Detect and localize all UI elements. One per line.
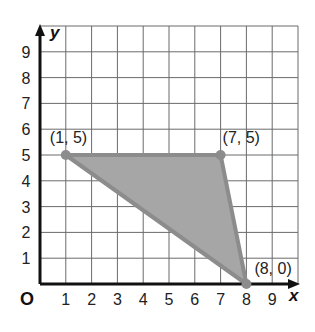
vertex-label: (8, 0): [254, 260, 291, 277]
vertex-label: (1, 5): [50, 129, 87, 146]
x-tick-label: 5: [165, 291, 174, 308]
y-tick-label: 3: [22, 199, 31, 216]
origin-label: O: [20, 289, 34, 309]
vertex-dot: [216, 150, 226, 160]
vertex-dot: [61, 150, 71, 160]
y-tick-label: 8: [22, 70, 31, 87]
y-tick-label: 6: [22, 121, 31, 138]
x-tick-label: 7: [216, 291, 225, 308]
x-tick-label: 3: [113, 291, 122, 308]
x-tick-label: 4: [139, 291, 148, 308]
x-tick-label: 1: [61, 291, 70, 308]
y-tick-label: 5: [22, 147, 31, 164]
y-tick-label: 2: [22, 224, 31, 241]
x-axis-label: x: [288, 286, 300, 305]
vertex-dot: [241, 279, 251, 289]
x-tick-label: 2: [87, 291, 96, 308]
shaded-triangle: [66, 155, 247, 284]
y-axis-label: y: [49, 23, 61, 42]
x-tick-label: 8: [242, 291, 251, 308]
y-tick-label: 7: [22, 95, 31, 112]
y-tick-label: 9: [22, 44, 31, 61]
x-tick-label: 6: [190, 291, 199, 308]
vertex-label: (7, 5): [223, 129, 260, 146]
y-tick-label: 4: [22, 173, 31, 190]
x-tick-label: 9: [268, 291, 277, 308]
coordinate-plane: 123456789123456789 (1, 5)(7, 5)(8, 0) y …: [0, 0, 315, 332]
y-tick-label: 1: [22, 250, 31, 267]
